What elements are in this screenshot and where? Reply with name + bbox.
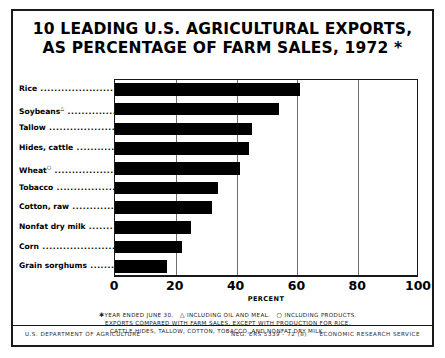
bar <box>115 162 240 175</box>
x-tick-label: 100 <box>405 278 431 293</box>
poster-frame: 10 LEADING U.S. AGRICULTURAL EXPORTS, AS… <box>11 9 434 347</box>
x-axis-title: PERCENT <box>248 295 285 303</box>
category-label-text: Wheat <box>19 165 47 174</box>
dot-leader: ........................................ <box>69 202 114 211</box>
category-label-text: Tobacco <box>19 183 53 192</box>
category-label: Soybeans△ ..............................… <box>19 99 114 119</box>
bar <box>115 83 300 96</box>
x-tick-label: 60 <box>288 278 305 293</box>
chart-title: 10 LEADING U.S. AGRICULTURAL EXPORTS, AS… <box>13 11 432 58</box>
dot-leader: ........................................ <box>37 84 114 93</box>
circle-icon: ○ <box>277 311 283 318</box>
category-label-text: Hides, cattle <box>19 143 73 152</box>
dot-leader: ........................................ <box>51 165 114 174</box>
footnote-2-text: INCLUDING OIL AND MEAL. <box>187 312 270 318</box>
category-label: Nonfat dry milk ........................… <box>19 217 114 237</box>
bar-row <box>115 238 419 258</box>
footnote-1-text: YEAR ENDED JUNE 30. <box>105 312 174 318</box>
x-tick-label: 40 <box>227 278 244 293</box>
footnote-3-text: INCLUDING PRODUCTS. <box>284 312 356 318</box>
x-tick-label: 0 <box>110 278 119 293</box>
category-label-text: Rice <box>19 84 37 93</box>
dot-leader: ........................................ <box>46 123 114 132</box>
triangle-icon: △ <box>180 311 185 318</box>
category-label: Corn ...................................… <box>19 237 114 257</box>
dot-leader: ........................................ <box>39 242 114 251</box>
chart-title-line-1: 10 LEADING U.S. AGRICULTURAL EXPORTS, <box>13 20 432 39</box>
plot-box <box>114 79 418 276</box>
credit-service: ECONOMIC RESEARCH SERVICE <box>319 331 420 337</box>
category-label-text: Grain sorghums <box>19 261 87 270</box>
dot-leader: ........................................ <box>64 106 114 115</box>
bar-row <box>115 179 419 199</box>
credit-bar: U.S. DEPARTMENT OF AGRICULTURE NEG. ERS … <box>13 325 432 345</box>
credit-negative-number: NEG. ERS 5339 - 72 (8) <box>231 331 307 337</box>
credit-agency: U.S. DEPARTMENT OF AGRICULTURE <box>25 331 141 337</box>
bar <box>115 123 252 136</box>
category-label: Cotton, raw ............................… <box>19 197 114 217</box>
category-label: Tobacco ................................… <box>19 178 114 198</box>
dot-leader: ........................................ <box>87 261 114 270</box>
bar <box>115 103 279 116</box>
bar <box>115 182 218 195</box>
bar <box>115 260 167 273</box>
category-label-text: Tallow <box>19 123 46 132</box>
bar <box>115 221 191 234</box>
bar-row <box>115 100 419 120</box>
x-tick-label: 80 <box>348 278 365 293</box>
bar-row <box>115 198 419 218</box>
category-label-column: Rice ...................................… <box>19 79 114 276</box>
category-label-text: Corn <box>19 242 39 251</box>
bar-row <box>115 159 419 179</box>
dot-leader: ........................................ <box>86 222 114 231</box>
footnote-line-1: ✱YEAR ENDED JUNE 30. △ INCLUDING OIL AND… <box>99 311 409 319</box>
chart-title-line-2: AS PERCENTAGE OF FARM SALES, 1972 * <box>13 39 432 58</box>
category-label-text: Nonfat dry milk <box>19 222 86 231</box>
category-label: Wheat○ .................................… <box>19 158 114 178</box>
bar <box>115 201 212 214</box>
dot-leader: ........................................ <box>53 183 114 192</box>
chart-area: Rice ...................................… <box>13 67 432 307</box>
bar-row <box>115 218 419 238</box>
category-label: Grain sorghums .........................… <box>19 256 114 276</box>
category-label-text: Soybeans <box>19 106 60 115</box>
category-label: Rice ...................................… <box>19 79 114 99</box>
bar <box>115 241 182 254</box>
dot-leader: ........................................ <box>73 143 114 152</box>
category-label: Tallow .................................… <box>19 118 114 138</box>
x-tick-label: 20 <box>166 278 183 293</box>
x-axis: 020406080100 PERCENT <box>114 276 418 306</box>
bar-row <box>115 119 419 139</box>
category-label: Hides, cattle ..........................… <box>19 138 114 158</box>
x-axis-line <box>114 276 418 277</box>
bar-row <box>115 257 419 277</box>
bar-row <box>115 80 419 100</box>
bar-row <box>115 139 419 159</box>
bar-series <box>115 80 417 275</box>
bar <box>115 142 249 155</box>
category-label-text: Cotton, raw <box>19 202 69 211</box>
